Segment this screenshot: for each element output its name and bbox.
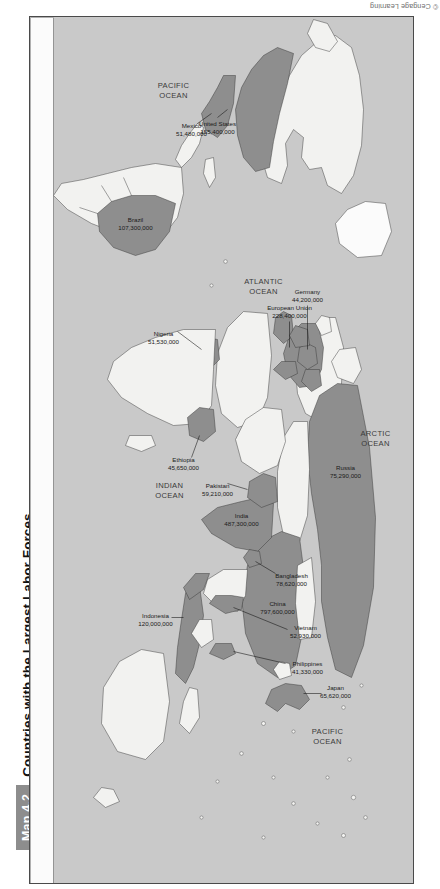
svg-text:Mexico: Mexico (181, 121, 201, 128)
svg-text:Indonesia: Indonesia (142, 611, 169, 618)
svg-text:ARCTIC: ARCTIC (360, 428, 390, 437)
world-map[interactable]: PACIFIC OCEAN PACIFIC OCEAN ARCTIC OCEAN… (30, 17, 413, 883)
svg-text:228,400,000: 228,400,000 (272, 311, 307, 318)
svg-text:OCEAN: OCEAN (249, 286, 278, 295)
map-frame[interactable]: PACIFIC OCEAN PACIFIC OCEAN ARCTIC OCEAN… (29, 16, 414, 884)
svg-text:INDIAN: INDIAN (155, 480, 183, 489)
svg-text:Bangladesh: Bangladesh (275, 571, 308, 578)
svg-text:OCEAN: OCEAN (159, 90, 188, 99)
svg-text:59,210,000: 59,210,000 (202, 489, 234, 496)
svg-text:Philippines: Philippines (292, 659, 322, 666)
svg-text:Japan: Japan (327, 683, 344, 690)
region-antarctica[interactable] (30, 17, 53, 883)
svg-text:45,650,000: 45,650,000 (168, 463, 200, 470)
svg-text:PACIFIC: PACIFIC (157, 80, 189, 89)
svg-text:Ethiopia: Ethiopia (172, 455, 195, 462)
svg-text:120,000,000: 120,000,000 (138, 619, 173, 626)
svg-text:Brazil: Brazil (127, 215, 142, 222)
svg-text:Nigeria: Nigeria (153, 329, 173, 336)
svg-text:41,330,000: 41,330,000 (292, 667, 324, 674)
svg-text:107,300,000: 107,300,000 (118, 223, 153, 230)
svg-text:487,300,000: 487,300,000 (224, 519, 259, 526)
svg-text:Vietnam: Vietnam (294, 623, 317, 630)
svg-text:PACIFIC: PACIFIC (311, 726, 343, 735)
svg-text:China: China (269, 599, 286, 606)
svg-text:India: India (234, 511, 248, 518)
svg-text:75,290,000: 75,290,000 (330, 471, 362, 478)
svg-text:OCEAN: OCEAN (313, 736, 342, 745)
svg-text:52,930,000: 52,930,000 (290, 631, 322, 638)
svg-text:OCEAN: OCEAN (155, 490, 184, 499)
svg-text:OCEAN: OCEAN (361, 438, 390, 447)
svg-text:51,480,000: 51,480,000 (176, 129, 208, 136)
map-page: Map 4.2 Countries with the Largest Labor… (0, 0, 440, 889)
svg-text:797,600,000: 797,600,000 (260, 607, 295, 614)
svg-text:European Union: European Union (267, 303, 312, 310)
svg-text:65,620,000: 65,620,000 (320, 691, 352, 698)
map-rotation-wrapper: PACIFIC OCEAN PACIFIC OCEAN ARCTIC OCEAN… (30, 17, 413, 883)
svg-text:Germany: Germany (294, 287, 320, 294)
svg-text:Pakistan: Pakistan (205, 481, 229, 488)
svg-text:Russia: Russia (336, 463, 355, 470)
svg-text:78,620,000: 78,620,000 (276, 579, 308, 586)
svg-text:51,530,000: 51,530,000 (148, 337, 180, 344)
copyright-notice: © Cengage Learning (370, 2, 438, 11)
svg-text:United States: United States (198, 119, 235, 126)
svg-text:44,200,000: 44,200,000 (292, 295, 324, 302)
svg-text:ATLANTIC: ATLANTIC (244, 276, 283, 285)
